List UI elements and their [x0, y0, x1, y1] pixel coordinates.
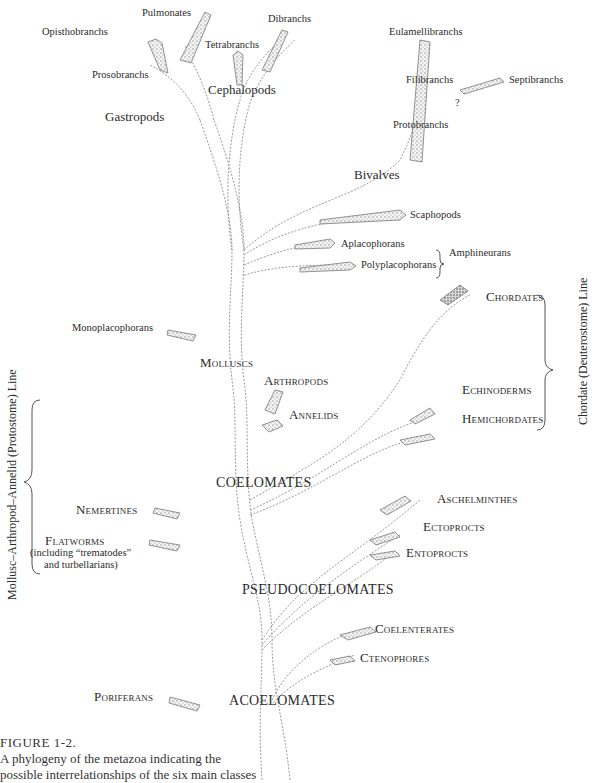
opisthobranchs-branch	[148, 39, 168, 73]
label-ctenophores: Ctenophores	[360, 651, 429, 664]
label-echinoderms: Echinoderms	[462, 383, 532, 396]
monoplacophorans-branch	[167, 330, 196, 341]
trunk-right-edge	[214, 120, 290, 780]
figure-caption: FIGURE 1-2. A phylogeny of the metazoa i…	[0, 735, 256, 783]
label-poriferans: Poriferans	[94, 690, 153, 703]
coelenterates-branch	[340, 627, 376, 640]
label-arthropods: Arthropods	[264, 374, 328, 387]
polyplacophorans-branch	[300, 262, 356, 272]
label-monoplacophorans: Monoplacophorans	[72, 323, 153, 334]
label-question-mark: ?	[455, 98, 460, 109]
scaphopods-branch	[320, 210, 406, 224]
entoprocts-branch	[370, 551, 400, 560]
amphineurans-bracket	[436, 250, 444, 278]
label-ectoprocts: Ectoprocts	[423, 520, 485, 533]
aplacophorans-branch	[295, 239, 335, 249]
label-hemichordates: Hemichordates	[462, 412, 544, 425]
label-tetrabranchs: Tetrabranchs	[205, 40, 259, 51]
label-deuterostome-line: Chordate (Deuterostome) Line	[576, 278, 591, 425]
label-annelids: Annelids	[289, 408, 338, 421]
chordates-branch	[440, 285, 468, 305]
caption-line-1: A phylogeny of the metazoa indicating th…	[0, 751, 256, 767]
label-nemertines: Nemertines	[76, 503, 137, 516]
label-septibranchs: Septibranchs	[509, 75, 563, 86]
label-flatworms-note-1: (including “trematodes”	[30, 548, 131, 559]
deuterostome-bracket	[537, 295, 553, 430]
label-prosobranchs: Prosobranchs	[92, 70, 149, 81]
label-coelomates: COELOMATES	[216, 476, 312, 490]
label-protobranchs: Protobranchs	[393, 120, 448, 131]
annelids-branch	[262, 420, 283, 432]
label-pulmonates: Pulmonates	[142, 8, 191, 19]
aschelminthes-branch	[380, 496, 411, 515]
poriferans-branch	[169, 697, 200, 711]
label-flatworms-note-2: and turbellarians)	[44, 560, 118, 571]
echinoderms-branch	[410, 408, 435, 424]
trunk-left-edge	[200, 120, 262, 780]
label-aplacophorans: Aplacophorans	[341, 239, 405, 250]
label-cephalopods: Cephalopods	[208, 83, 276, 96]
figure-label: FIGURE 1-2.	[0, 735, 256, 751]
pulmonates-branch	[180, 12, 211, 63]
hemichordates-branch	[400, 434, 435, 445]
label-acoelomates: ACOELOMATES	[229, 694, 335, 708]
label-protostome-line: Mollusc–Arthropod–Annelid (Protostome) L…	[5, 369, 20, 600]
caption-line-2: possible interrelationships of the six m…	[0, 767, 256, 783]
tetrabranchs-branch	[233, 51, 243, 85]
label-bivalves: Bivalves	[354, 168, 400, 181]
label-entoprocts: Entoprocts	[406, 546, 468, 559]
eulamellibranchs-branch	[410, 40, 430, 162]
label-chordates: Chordates	[486, 290, 543, 303]
flatworms-branch	[149, 540, 180, 551]
label-filibranchs: Filibranchs	[406, 75, 453, 86]
label-pseudocoelomates: PSEUDOCOELOMATES	[242, 583, 394, 597]
label-dibranchs: Dibranchs	[268, 14, 311, 25]
label-aschelminthes: Aschelminthes	[437, 492, 518, 505]
ctenophores-branch	[330, 656, 355, 665]
label-gastropods: Gastropods	[105, 110, 164, 123]
label-opisthobranchs: Opisthobranchs	[42, 27, 108, 38]
label-flatworms: Flatworms	[45, 534, 105, 547]
label-eulamellibranchs: Eulamellibranchs	[389, 27, 462, 38]
arthropods-branch	[265, 390, 283, 414]
septibranchs-branch	[460, 78, 504, 94]
label-coelenterates: Coelenterates	[375, 622, 454, 635]
nemertines-branch	[153, 508, 180, 519]
label-amphineurans: Amphineurans	[449, 248, 511, 259]
label-molluscs: Molluscs	[200, 356, 253, 369]
label-polyplacophorans: Polyplacophorans	[361, 260, 436, 271]
label-scaphopods: Scaphopods	[410, 210, 461, 221]
ectoprocts-branch	[370, 532, 400, 545]
